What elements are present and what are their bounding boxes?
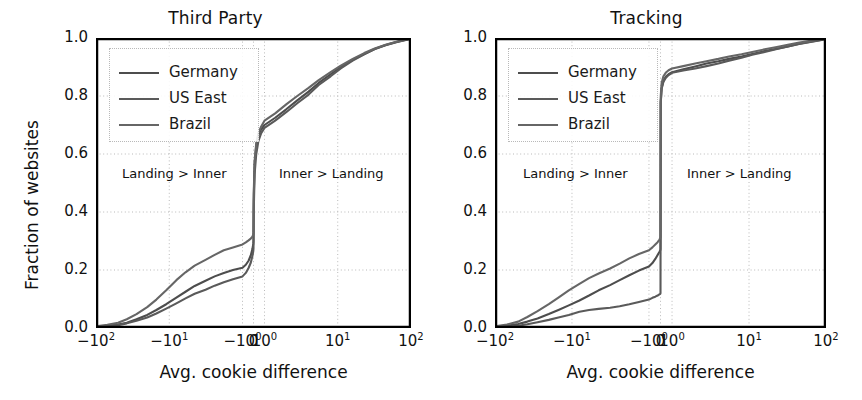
legend-label: US East bbox=[568, 89, 626, 107]
annotation-inner-gt-landing: Inner > Landing bbox=[279, 166, 384, 181]
figure-root: Third Party Germany bbox=[0, 0, 862, 400]
y-tick-label: 0.8 bbox=[447, 86, 487, 104]
legend-swatch-germany-icon bbox=[117, 62, 161, 84]
panel-title: Third Party bbox=[0, 8, 431, 28]
x-axis-label: Avg. cookie difference bbox=[495, 362, 826, 382]
legend-label: US East bbox=[169, 89, 227, 107]
x-tick-label: −101 bbox=[542, 332, 602, 350]
x-tick-label: 102 bbox=[796, 332, 856, 350]
y-tick-label: 0.0 bbox=[48, 318, 88, 336]
panel-title: Tracking bbox=[431, 8, 862, 28]
legend-label: Germany bbox=[568, 63, 637, 81]
annotation-inner-gt-landing: Inner > Landing bbox=[687, 166, 792, 181]
x-axis-label: Avg. cookie difference bbox=[96, 362, 411, 382]
legend-swatch-us-east-icon bbox=[516, 88, 560, 110]
plot-area-tracking: Germany US East Brazil Landing > Inner I… bbox=[495, 38, 826, 328]
chart-panel-third-party: Third Party Germany bbox=[0, 0, 431, 400]
y-tick-label: 1.0 bbox=[48, 28, 88, 46]
legend-entry-germany: Germany bbox=[516, 62, 648, 84]
y-tick-label: 0.2 bbox=[48, 260, 88, 278]
legend-entry-us-east: US East bbox=[117, 88, 249, 110]
x-tick-label: 100 bbox=[642, 332, 702, 350]
y-tick-label: 0.2 bbox=[447, 260, 487, 278]
y-tick-label: 0.6 bbox=[48, 144, 88, 162]
y-tick-label: 0.6 bbox=[447, 144, 487, 162]
x-tick-label: 101 bbox=[308, 332, 368, 350]
legend-label: Brazil bbox=[568, 115, 610, 133]
annotation-landing-gt-inner: Landing > Inner bbox=[523, 166, 628, 181]
legend-swatch-brazil-icon bbox=[516, 114, 560, 136]
legend-label: Brazil bbox=[169, 115, 211, 133]
x-tick-label: 101 bbox=[719, 332, 779, 350]
legend: Germany US East Brazil bbox=[508, 48, 658, 142]
y-tick-label: 1.0 bbox=[447, 28, 487, 46]
x-tick-label: 100 bbox=[234, 332, 294, 350]
legend-entry-us-east: US East bbox=[516, 88, 648, 110]
y-tick-label: 0.4 bbox=[447, 202, 487, 220]
legend: Germany US East Brazil bbox=[109, 48, 259, 142]
y-tick-label: 0.4 bbox=[48, 202, 88, 220]
y-axis-label: Fraction of websites bbox=[22, 120, 42, 290]
legend-swatch-brazil-icon bbox=[117, 114, 161, 136]
legend-entry-brazil: Brazil bbox=[516, 114, 648, 136]
legend-swatch-germany-icon bbox=[516, 62, 560, 84]
legend-entry-brazil: Brazil bbox=[117, 114, 249, 136]
x-tick-label: −101 bbox=[139, 332, 199, 350]
legend-entry-germany: Germany bbox=[117, 62, 249, 84]
y-tick-label: 0.0 bbox=[447, 318, 487, 336]
annotation-landing-gt-inner: Landing > Inner bbox=[122, 166, 227, 181]
chart-panel-tracking: Tracking Germany US E bbox=[431, 0, 862, 400]
y-tick-label: 0.8 bbox=[48, 86, 88, 104]
legend-label: Germany bbox=[169, 63, 238, 81]
legend-swatch-us-east-icon bbox=[117, 88, 161, 110]
plot-area-third-party: Germany US East Brazil Landing > Inner bbox=[96, 38, 411, 328]
